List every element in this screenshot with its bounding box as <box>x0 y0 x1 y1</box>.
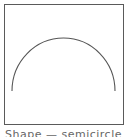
semicircle-figure <box>0 0 128 137</box>
caption: Shape — semicircle <box>5 128 128 137</box>
semicircle-arc <box>12 38 115 91</box>
